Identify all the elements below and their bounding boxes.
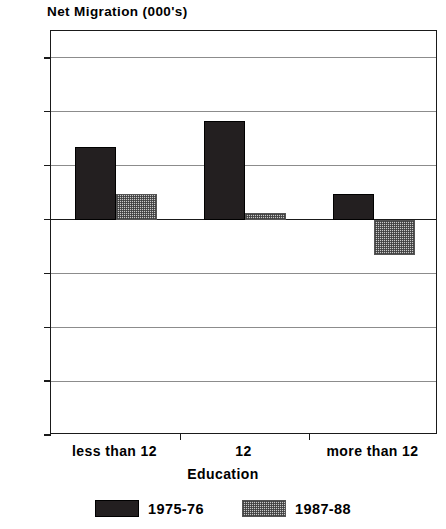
plot-area: [51, 31, 436, 433]
legend-item-1975-76: 1975-76: [95, 500, 204, 517]
chart-legend: 1975-761987-88: [0, 500, 446, 517]
x-tick-1: [180, 433, 181, 440]
legend-label-1987-88: 1987-88: [295, 501, 351, 517]
legend-label-1975-76: 1975-76: [148, 501, 204, 517]
solid-dark-swatch: [95, 500, 139, 517]
gridline--200: [51, 327, 436, 328]
checker-gray-swatch: [242, 500, 286, 517]
bar-1987-88-less-than-12: [116, 194, 157, 220]
x-tick-2: [309, 433, 310, 440]
net-migration-bar-chart: Net Migration (000's) Education 1975-761…: [0, 0, 446, 529]
legend-item-1987-88: 1987-88: [242, 500, 351, 517]
bar-1975-76-less-than-12: [75, 147, 116, 220]
y-tick-100: [44, 165, 51, 166]
bar-1975-76-12: [204, 121, 245, 219]
y-tick--100: [44, 273, 51, 274]
y-tick--300: [44, 380, 51, 381]
x-axis-label-12: 12: [235, 443, 251, 459]
x-axis-title: Education: [0, 466, 446, 482]
x-axis-label-less-than-12: less than 12: [72, 443, 157, 459]
y-tick-0: [44, 219, 51, 220]
y-tick--400: [44, 434, 51, 435]
gridline-200: [51, 111, 436, 112]
gridline--300: [51, 381, 436, 382]
y-tick--200: [44, 327, 51, 328]
y-tick-300: [44, 57, 51, 58]
bar-1987-88-more-than-12: [374, 220, 415, 255]
bar-1987-88-12: [245, 213, 286, 219]
x-axis-label-more-than-12: more than 12: [327, 443, 419, 459]
gridline--100: [51, 273, 436, 274]
y-tick-200: [44, 111, 51, 112]
gridline-300: [51, 57, 436, 58]
y-axis-title: Net Migration (000's): [47, 4, 188, 19]
bar-1975-76-more-than-12: [333, 194, 374, 220]
plot-frame: [50, 30, 437, 434]
